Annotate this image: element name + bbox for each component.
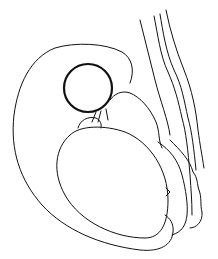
tube-1 bbox=[140, 20, 170, 135]
tube-4 bbox=[166, 10, 204, 168]
right-lobe-inner bbox=[158, 142, 187, 235]
outer-sac-outline bbox=[13, 44, 173, 250]
large-oval bbox=[57, 127, 168, 238]
circle-structure bbox=[64, 64, 112, 112]
illustration bbox=[0, 0, 218, 259]
tube-3 bbox=[160, 14, 196, 170]
line-drawing bbox=[0, 0, 218, 259]
upper-lobe bbox=[110, 92, 162, 148]
right-lobe-outer bbox=[170, 140, 202, 228]
tube-2 bbox=[154, 16, 192, 215]
stalk-right bbox=[106, 109, 108, 120]
small-node bbox=[78, 117, 101, 128]
